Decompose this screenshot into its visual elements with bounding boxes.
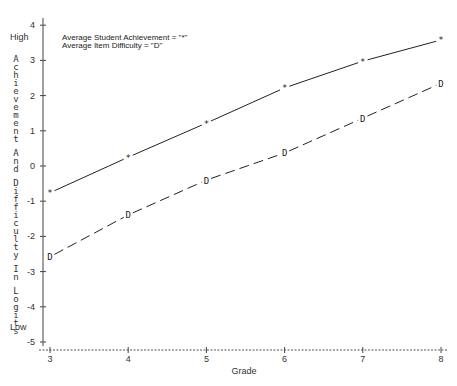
y-tick-label: -1 — [27, 196, 35, 206]
y-axis-label-char: d — [13, 164, 18, 174]
series-line-segment — [54, 217, 123, 254]
series-line-segment — [368, 41, 437, 60]
x-tick-label: 3 — [47, 354, 52, 364]
y-tick-label: 1 — [30, 126, 35, 136]
series-line-segment — [133, 125, 202, 155]
x-tick-label: 5 — [204, 354, 209, 364]
y-axis-label-char: y — [13, 250, 19, 260]
data-point: * — [438, 35, 443, 45]
data-point: D — [282, 148, 287, 158]
series-line-segment — [289, 63, 358, 87]
data-point: * — [360, 57, 365, 67]
x-axis-title: Grade — [231, 366, 256, 376]
y-label-low: Low — [10, 322, 27, 332]
series-line-segment — [211, 90, 280, 121]
data-point: * — [125, 153, 130, 163]
y-tick-label: 0 — [30, 161, 35, 171]
data-point: D — [125, 210, 130, 220]
axes: 43210-1-2-3-4-5345678 — [27, 18, 448, 364]
x-tick-label: 4 — [126, 354, 131, 364]
y-axis-label-char: n — [13, 272, 18, 282]
x-tick-label: 6 — [282, 354, 287, 364]
y-tick-label: -4 — [27, 302, 35, 312]
series-line-segment — [367, 85, 436, 116]
legend: Average Student Achievement = "*" Averag… — [62, 33, 188, 50]
data-point: * — [47, 188, 52, 198]
series-line-segment — [211, 155, 280, 179]
legend-entry-difficulty: Average Item Difficulty = "D" — [62, 41, 162, 50]
series-difficulty: DDDDDD — [47, 79, 443, 263]
chart: 43210-1-2-3-4-5345678 AchievementAndDiff… — [0, 0, 457, 386]
y-tick-label: 2 — [30, 91, 35, 101]
y-tick-label: -5 — [27, 337, 35, 347]
series-achievement: ****** — [47, 35, 443, 198]
data-point: * — [282, 83, 287, 93]
y-tick-label: -3 — [27, 267, 35, 277]
y-tick-label: 3 — [30, 55, 35, 65]
y-axis-label-char: t — [13, 134, 18, 144]
data-point: D — [438, 79, 443, 89]
y-tick-label: 4 — [30, 20, 35, 30]
series-line-segment — [55, 159, 124, 190]
x-tick-label: 7 — [360, 354, 365, 364]
data-point: D — [47, 252, 52, 262]
series-line-segment — [133, 182, 202, 213]
data-point: * — [204, 119, 209, 129]
data-point: D — [360, 114, 365, 124]
y-axis-label: AchievementAndDifficultyInLogits — [13, 54, 19, 336]
y-label-high: High — [10, 32, 29, 42]
series: ******DDDDDD — [47, 35, 443, 262]
y-tick-label: -2 — [27, 231, 35, 241]
series-line-segment — [289, 120, 358, 151]
data-point: D — [204, 176, 209, 186]
x-tick-label: 8 — [438, 354, 443, 364]
